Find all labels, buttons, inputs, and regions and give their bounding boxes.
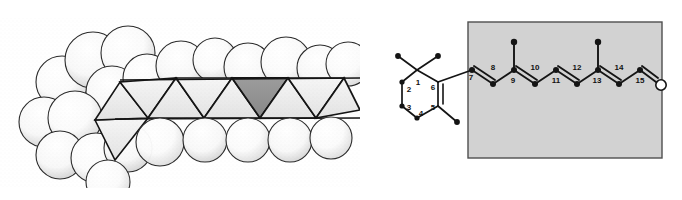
chain-label-10: 10	[531, 63, 540, 72]
ring-label-6: 6	[431, 83, 436, 92]
stipple-texture	[0, 0, 360, 200]
chain-label-14: 14	[615, 63, 624, 72]
ring-label-1: 1	[416, 78, 421, 87]
ring-label-4: 4	[419, 109, 424, 118]
oxygen-atom	[656, 80, 666, 90]
ring-label-2: 2	[407, 85, 412, 94]
chain-label-13: 13	[593, 76, 602, 85]
chain-label-11: 11	[552, 76, 561, 85]
skeletal-structure-panel: 1 2 3 4 5 6	[360, 0, 682, 200]
chain-label-7: 7	[469, 73, 474, 82]
space-filling-model-svg	[0, 0, 360, 200]
ring-label-3: 3	[407, 103, 412, 112]
ring-label-5: 5	[431, 103, 436, 112]
space-filling-model-panel	[0, 0, 360, 200]
chain-label-12: 12	[573, 63, 582, 72]
skeletal-structure-svg: 1 2 3 4 5 6	[360, 0, 682, 200]
chain-label-8: 8	[491, 63, 496, 72]
figure-root: 1 2 3 4 5 6	[0, 0, 682, 200]
chain-label-15: 15	[636, 76, 645, 85]
ring-number-labels: 1 2 3 4 5 6	[407, 78, 436, 118]
chain-label-9: 9	[511, 76, 516, 85]
gray-backdrop	[468, 22, 662, 158]
